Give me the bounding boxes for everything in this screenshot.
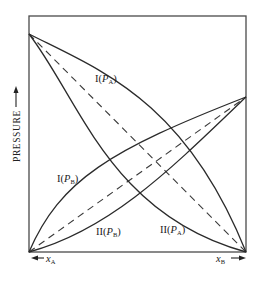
label-ii-pa: II(PA)	[160, 224, 186, 236]
label-i-pa: I(PA)	[95, 73, 117, 85]
arrow-up-icon	[14, 86, 19, 93]
label-i-pb: I(PB)	[57, 173, 79, 185]
curve-i-pa	[29, 34, 246, 252]
y-axis-title: PRESSURE	[12, 86, 22, 162]
ideal-pa-line	[29, 34, 246, 252]
x-a-text: xA	[45, 253, 56, 265]
arrow-right-icon	[239, 256, 246, 261]
x-a-label: xA	[31, 253, 56, 265]
arrow-left-icon	[31, 256, 38, 261]
curve-ii-pa	[29, 34, 246, 252]
label-ii-pb: II(PB)	[96, 226, 121, 238]
pressure-label: PRESSURE	[12, 110, 22, 162]
plot-frame	[29, 16, 246, 252]
x-b-text: xB	[215, 253, 226, 265]
vapor-pressure-diagram: I(PA) II(PA) I(PB) II(PB) PRESSURE xA xB	[0, 0, 261, 283]
x-b-label: xB	[215, 253, 246, 265]
